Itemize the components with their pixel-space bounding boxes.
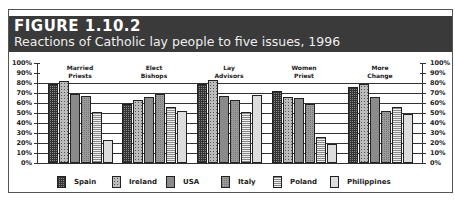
legend-item: USA bbox=[166, 175, 199, 189]
legend-label: Ireland bbox=[129, 178, 157, 186]
group-label-line2: Bishops bbox=[118, 72, 190, 80]
bar-chart: 100%100%90%90%80%80%70%70%60%60%50%50%40… bbox=[0, 0, 455, 200]
bar-spain bbox=[272, 91, 282, 163]
y-tick-label-right: 100% bbox=[430, 59, 450, 67]
bar-ireland bbox=[59, 81, 69, 163]
bar-poland bbox=[392, 107, 402, 163]
legend-item: Poland bbox=[273, 175, 317, 189]
y-tick-label-left: 50% bbox=[12, 109, 32, 117]
bar-poland bbox=[241, 112, 251, 163]
legend-label: Italy bbox=[238, 178, 256, 186]
y-tick-label-left: 60% bbox=[12, 99, 32, 107]
bar-poland bbox=[166, 107, 176, 163]
y-tick-label-right: 60% bbox=[430, 99, 450, 107]
bar-usa bbox=[144, 97, 154, 163]
group-label-line2: Change bbox=[344, 72, 416, 80]
bar-spain bbox=[48, 84, 58, 163]
legend-item: Ireland bbox=[112, 175, 157, 189]
group-label: WomenPriest bbox=[268, 64, 340, 80]
y-tick-label-left: 70% bbox=[12, 89, 32, 97]
gridline bbox=[37, 163, 422, 164]
y-tick-label-left: 30% bbox=[12, 129, 32, 137]
y-tick-label-left: 10% bbox=[12, 149, 32, 157]
group-label-line2: Advisors bbox=[193, 72, 265, 80]
y-axis-right bbox=[422, 63, 423, 164]
group-label-line2: Priest bbox=[268, 72, 340, 80]
y-tick-label-right: 90% bbox=[430, 69, 450, 77]
group-label-line1: Women bbox=[268, 64, 340, 72]
legend-swatch-icon bbox=[273, 176, 282, 188]
y-axis-left bbox=[37, 63, 38, 164]
y-tick-label-left: 100% bbox=[12, 59, 32, 67]
legend-swatch-icon bbox=[112, 176, 121, 188]
bar-usa bbox=[219, 96, 229, 163]
y-tick-label-right: 40% bbox=[430, 119, 450, 127]
legend-item: Philippines bbox=[330, 175, 391, 189]
group-label: LayAdvisors bbox=[193, 64, 265, 80]
bar-philippines bbox=[252, 95, 262, 163]
legend-label: Philippines bbox=[347, 178, 391, 186]
bar-italy bbox=[81, 96, 91, 163]
y-tick-right bbox=[420, 73, 426, 74]
legend-swatch-icon bbox=[57, 176, 66, 188]
y-tick-label-right: 20% bbox=[430, 139, 450, 147]
bar-poland bbox=[92, 112, 102, 163]
legend-swatch-icon bbox=[221, 176, 230, 188]
bar-usa bbox=[370, 97, 380, 163]
group-label: MarriedPriests bbox=[44, 64, 116, 80]
y-tick-label-right: 50% bbox=[430, 109, 450, 117]
bar-usa bbox=[70, 94, 80, 163]
legend-label: Poland bbox=[290, 178, 317, 186]
bar-italy bbox=[381, 111, 391, 163]
y-tick-label-left: 80% bbox=[12, 79, 32, 87]
y-tick-label-right: 80% bbox=[430, 79, 450, 87]
bar-ireland bbox=[133, 100, 143, 163]
y-tick-label-left: 0% bbox=[12, 159, 32, 167]
legend-swatch-icon bbox=[330, 176, 339, 188]
bar-spain bbox=[348, 87, 358, 163]
bar-italy bbox=[230, 100, 240, 163]
legend-item: Spain bbox=[57, 175, 96, 189]
bar-spain bbox=[197, 84, 207, 163]
group-label: MoreChange bbox=[344, 64, 416, 80]
y-tick-right bbox=[420, 63, 426, 64]
y-tick-label-right: 70% bbox=[430, 89, 450, 97]
group-label: ElectBishops bbox=[118, 64, 190, 80]
y-tick-label-right: 30% bbox=[430, 129, 450, 137]
bar-philippines bbox=[177, 111, 187, 163]
legend-item: Italy bbox=[221, 175, 256, 189]
y-tick-label-left: 90% bbox=[12, 69, 32, 77]
group-label-line1: More bbox=[344, 64, 416, 72]
bar-philippines bbox=[403, 114, 413, 163]
y-tick-label-right: 0% bbox=[430, 159, 450, 167]
group-label-line1: Elect bbox=[118, 64, 190, 72]
bar-philippines bbox=[327, 144, 337, 163]
group-label-line1: Lay bbox=[193, 64, 265, 72]
bar-ireland bbox=[208, 80, 218, 163]
y-tick-label-right: 10% bbox=[430, 149, 450, 157]
bar-ireland bbox=[283, 97, 293, 163]
bar-poland bbox=[316, 137, 326, 163]
y-tick-label-left: 20% bbox=[12, 139, 32, 147]
group-label-line1: Married bbox=[44, 64, 116, 72]
bar-spain bbox=[122, 104, 132, 163]
bar-ireland bbox=[359, 84, 369, 163]
bar-italy bbox=[305, 104, 315, 163]
legend-swatch-icon bbox=[166, 176, 175, 188]
legend-label: Spain bbox=[74, 178, 96, 186]
legend-label: USA bbox=[183, 178, 199, 186]
group-label-line2: Priests bbox=[44, 72, 116, 80]
bar-italy bbox=[155, 94, 165, 163]
bar-usa bbox=[294, 98, 304, 163]
bar-philippines bbox=[103, 140, 113, 163]
y-tick-label-left: 40% bbox=[12, 119, 32, 127]
